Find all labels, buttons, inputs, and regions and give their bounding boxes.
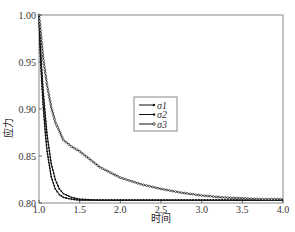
data-point [44,128,46,130]
data-point [247,198,249,200]
data-point [114,174,116,176]
data-point [44,105,46,107]
data-point [90,199,92,201]
data-point [54,175,56,177]
data-point [57,126,59,128]
data-point [201,194,203,196]
y-axis-label: 应力 [2,118,14,138]
data-point [45,123,47,125]
data-point [42,89,44,91]
data-point [198,194,200,196]
data-point [49,153,51,155]
legend-marker [153,113,155,115]
data-point [42,86,44,88]
data-point [43,66,45,68]
data-point [43,63,45,65]
data-point [85,156,87,158]
x-axis-label: 时间 [151,212,171,224]
data-point [94,163,96,165]
data-point [195,199,197,201]
data-point [49,167,51,169]
data-point [122,199,124,201]
data-point [43,59,45,61]
data-point [131,180,133,182]
data-point [48,144,50,146]
data-point [63,196,65,198]
data-point [48,94,50,96]
data-point [50,106,52,108]
data-point [42,84,44,86]
data-point [273,198,275,200]
data-point [43,110,45,112]
data-point [186,199,188,201]
data-point [48,150,50,152]
data-point [99,166,101,168]
data-point [218,196,220,198]
data-point [143,199,145,201]
data-point [230,197,232,199]
data-point [58,188,60,190]
data-point [236,199,238,201]
data-point [43,119,45,121]
data-point [154,187,156,189]
data-point [224,199,226,201]
data-point [122,178,124,180]
data-point [172,190,174,192]
data-point [39,26,41,28]
data-point [102,199,104,201]
data-point [157,199,159,201]
data-point [189,193,191,195]
data-point [45,120,47,122]
y-tick-label: 0.90 [19,104,37,115]
data-point [236,197,238,199]
data-point [58,194,60,196]
data-point [259,198,261,200]
data-point [46,129,48,131]
data-point [201,199,203,201]
x-tick-label: 3.0 [195,204,208,215]
data-point [279,198,281,200]
data-point [48,159,50,161]
data-point [47,138,49,140]
data-point [41,44,43,46]
data-point [43,96,45,98]
data-point [50,103,52,105]
data-point [160,199,162,201]
data-point [157,187,159,189]
data-point [166,199,168,201]
data-point [111,199,113,201]
x-tick-label: 4.0 [277,204,290,215]
data-point [163,188,165,190]
y-tick-label: 0.85 [19,151,37,162]
data-point [46,81,48,83]
data-point [81,152,83,154]
data-point [96,199,98,201]
data-point [58,129,60,131]
data-point [169,199,171,201]
data-point [48,162,50,164]
data-point [44,69,46,71]
data-point [233,197,235,199]
data-point [53,172,55,174]
data-point [189,199,191,201]
data-point [46,134,48,136]
data-point [207,199,209,201]
data-point [48,97,50,99]
data-point [88,157,90,159]
data-point [117,175,119,177]
data-point [46,132,48,134]
data-point [51,109,53,111]
data-point [125,199,127,201]
data-point [47,141,49,143]
data-point [238,197,240,199]
data-point [175,191,177,193]
data-point [265,198,267,200]
data-point [41,50,43,52]
data-point [44,72,46,74]
data-point [38,14,40,16]
data-point [39,29,41,31]
data-point [195,194,197,196]
data-point [90,159,92,161]
data-point [71,198,73,200]
data-point [128,199,130,201]
